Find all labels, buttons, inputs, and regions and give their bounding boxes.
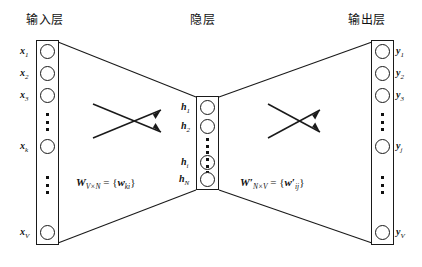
input-node-label-V: xV: [20, 226, 29, 240]
input-node-label-3: x3: [20, 89, 29, 103]
output-node-V: [375, 225, 390, 240]
output-node-3: [375, 88, 390, 103]
weight-matrix-label-left: WV×N = {wki}: [76, 176, 135, 191]
weight-matrix-label-right: W′N×V = {w′ij}: [240, 176, 304, 191]
hidden-node-N: [200, 172, 215, 187]
input-node-2: [40, 66, 55, 81]
input-ellipsis-lower: [46, 176, 49, 194]
hidden-node-label-2: h2: [181, 120, 190, 134]
input-ellipsis-upper: [46, 113, 49, 131]
output-node-label-V: yV: [396, 226, 405, 240]
hidden-node-label-i: hi: [181, 156, 189, 170]
input-node-label-2: x2: [20, 67, 29, 81]
input-node-1: [40, 44, 55, 59]
hidden-node-label-N: hN: [179, 173, 189, 187]
output-node-label-j: yj: [396, 140, 402, 154]
input-node-label-1: x1: [20, 45, 29, 59]
output-node-2: [375, 66, 390, 81]
output-node-label-2: y2: [396, 67, 404, 81]
output-node-1: [375, 44, 390, 59]
hidden-layer-title: 隐层: [190, 10, 215, 27]
output-node-label-1: y1: [396, 45, 404, 59]
output-layer-title: 输出层: [348, 10, 386, 27]
input-layer-title: 输入层: [26, 10, 64, 27]
output-node-label-3: y3: [396, 89, 404, 103]
output-node-j: [375, 139, 390, 154]
input-node-label-k: xk: [20, 140, 28, 154]
hidden-node-label-1: h1: [181, 101, 190, 115]
input-node-3: [40, 88, 55, 103]
right-cross-arrows: [268, 104, 322, 138]
connector-input-hidden-bottom: [58, 190, 196, 243]
input-node-k: [40, 139, 55, 154]
connector-hidden-output-top: [219, 42, 372, 97]
hidden-node-2: [200, 119, 215, 134]
left-cross-arrows: [93, 104, 163, 138]
hidden-node-1: [200, 100, 215, 115]
output-ellipsis-lower: [381, 176, 384, 194]
output-ellipsis-upper: [381, 113, 384, 131]
connector-hidden-output-bottom: [219, 190, 372, 243]
hidden-ellipsis-upper: [206, 138, 209, 154]
neural-network-diagram: 输入层 隐层 输出层 x1 x2: [0, 0, 422, 267]
connector-input-hidden-top: [58, 42, 196, 97]
input-node-V: [40, 225, 55, 240]
